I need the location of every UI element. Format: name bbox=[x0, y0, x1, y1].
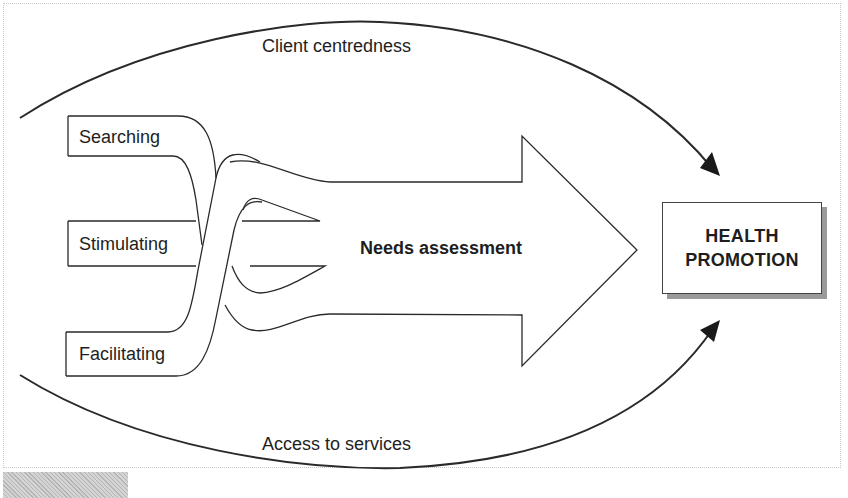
searching-label: Searching bbox=[79, 127, 160, 148]
health-promotion-line2: PROMOTION bbox=[685, 248, 799, 272]
client-centredness-label: Client centredness bbox=[262, 36, 411, 57]
arrowhead-bottom-icon bbox=[700, 320, 720, 342]
needs-assessment-label: Needs assessment bbox=[360, 238, 522, 259]
facilitating-label: Facilitating bbox=[79, 344, 165, 365]
stimulating-label: Stimulating bbox=[79, 234, 168, 255]
arrowhead-top-icon bbox=[700, 152, 720, 176]
health-promotion-line1: HEALTH bbox=[705, 224, 778, 248]
access-to-services-label: Access to services bbox=[262, 434, 411, 455]
health-promotion-box: HEALTH PROMOTION bbox=[662, 202, 822, 294]
